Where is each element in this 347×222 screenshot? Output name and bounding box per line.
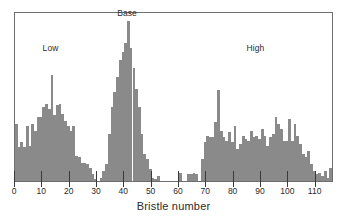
x-tick-inner [233,171,234,182]
x-tick-inner [287,171,288,182]
plot-frame: LowBaseHigh [14,12,333,182]
x-tick-inner [315,171,316,182]
peak-label-base: Base [117,8,137,18]
peak-label-low: Low [43,43,59,53]
peak-label-high: High [247,43,265,53]
x-axis-label: Bristle number [0,200,347,212]
x-tick-inner [123,171,124,182]
histogram-figure: LowBaseHigh 0102030405060708090100110 Br… [0,0,347,222]
x-tick-inner [151,171,152,182]
x-tick-inner [260,171,261,182]
x-tick-label: 70 [201,186,210,196]
inner-ticks-layer [14,170,333,182]
x-tick-inner [14,171,15,182]
bars-layer [15,13,332,181]
x-tick-label: 10 [37,186,46,196]
x-tick-inner [178,171,179,182]
x-tick-label: 100 [280,186,294,196]
x-tick-label: 80 [228,186,237,196]
x-tick-label: 30 [91,186,100,196]
x-tick-label: 50 [146,186,155,196]
x-tick-inner [69,171,70,182]
x-tick-label: 60 [173,186,182,196]
x-tick-inner [41,171,42,182]
x-tick-label: 110 [308,186,322,196]
x-tick-label: 90 [255,186,264,196]
x-tick-label: 0 [12,186,17,196]
x-tick-label: 20 [64,186,73,196]
x-tick-inner [96,171,97,182]
x-tick-label: 40 [119,186,128,196]
x-tick-inner [205,171,206,182]
axis-tick-labels: 0102030405060708090100110 [14,186,333,200]
